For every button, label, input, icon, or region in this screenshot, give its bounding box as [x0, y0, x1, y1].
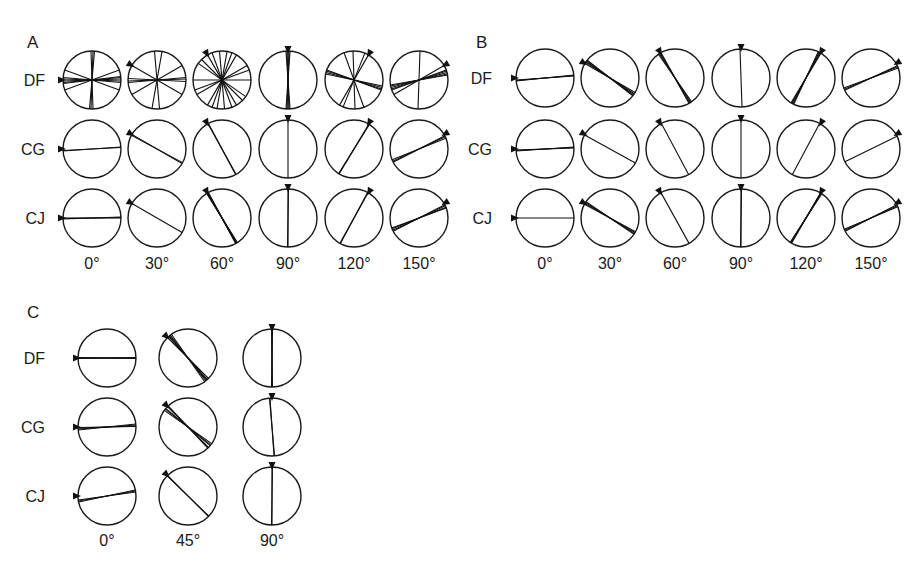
response-line: [587, 60, 633, 96]
orientation-dial: [243, 324, 301, 387]
row-label-cg: CG: [21, 419, 45, 436]
stimulus-marker-icon: [58, 215, 66, 222]
panel-a: ADFCGCJ0°30°60°90°120°150°: [21, 33, 450, 272]
condition-label: 60°: [210, 255, 234, 272]
response-line: [792, 123, 819, 174]
row-label-cj: CJ: [25, 488, 45, 505]
orientation-dial: [193, 49, 251, 109]
stimulus-marker-icon: [285, 115, 292, 123]
response-line: [845, 205, 897, 231]
stimulus-marker-icon: [285, 184, 292, 192]
orientation-dial: [58, 51, 121, 109]
stimulus-marker-icon: [161, 400, 169, 408]
response-line: [791, 53, 821, 103]
orientation-dial: [777, 118, 835, 178]
panel-letter: A: [27, 33, 39, 52]
response-line: [845, 136, 897, 161]
response-line: [392, 208, 447, 228]
response-line: [584, 204, 635, 231]
row-label-df: DF: [471, 70, 493, 87]
orientation-dial: [646, 118, 704, 178]
response-line: [208, 123, 235, 174]
orientation-dial: [646, 47, 704, 107]
condition-label: 120°: [337, 255, 370, 272]
panel-b: BDFCGCJ0°30°60°90°120°150°: [468, 33, 902, 272]
orientation-dial: [777, 187, 835, 247]
orientation-dial: [58, 189, 121, 247]
response-line: [393, 136, 445, 162]
response-line: [790, 194, 822, 243]
response-line: [132, 135, 182, 164]
stimulus-marker-icon: [738, 44, 745, 52]
response-line: [740, 49, 742, 107]
condition-label: 0°: [84, 255, 99, 272]
orientation-dial: [243, 462, 301, 525]
row-label-cg: CG: [468, 141, 492, 158]
response-line: [270, 398, 274, 456]
orientation-dial: [259, 184, 317, 247]
condition-label: 90°: [260, 532, 284, 549]
stimulus-marker-icon: [73, 355, 81, 362]
figure-canvas: ADFCGCJ0°30°60°90°120°150°BDFCGCJ0°30°60…: [0, 0, 918, 573]
orientation-dial: [126, 189, 186, 247]
panel-letter: C: [27, 303, 39, 322]
condition-label: 0°: [99, 532, 114, 549]
panel-letter: B: [476, 33, 487, 52]
response-line: [78, 426, 136, 427]
response-line: [168, 406, 208, 448]
response-line: [340, 193, 368, 244]
condition-label: 90°: [276, 255, 300, 272]
response-line: [516, 75, 574, 81]
condition-label: 150°: [402, 255, 435, 272]
orientation-dial: [325, 118, 383, 178]
stimulus-marker-icon: [161, 331, 169, 339]
orientation-dial: [159, 467, 217, 525]
orientation-dial: [259, 46, 317, 109]
stimulus-marker-icon: [738, 184, 745, 192]
orientation-dial: [126, 120, 186, 178]
orientation-dial: [842, 49, 902, 107]
stimulus-marker-icon: [269, 462, 276, 470]
condition-label: 150°: [854, 255, 887, 272]
orientation-dial: [579, 189, 639, 247]
orientation-dial: [259, 115, 317, 178]
orientation-dial: [325, 49, 383, 109]
condition-label: 30°: [598, 255, 622, 272]
condition-label: 30°: [145, 255, 169, 272]
stimulus-marker-icon: [511, 215, 519, 222]
orientation-dial: [73, 329, 136, 387]
orientation-dial: [325, 187, 383, 247]
orientation-dial: [159, 398, 217, 456]
orientation-dial: [646, 187, 704, 247]
response-line: [661, 193, 689, 244]
condition-label: 45°: [176, 532, 200, 549]
orientation-dial: [842, 189, 902, 247]
stimulus-marker-icon: [73, 493, 81, 500]
row-label-cj: CJ: [25, 210, 45, 227]
orientation-dial: [390, 120, 450, 178]
orientation-dial: [193, 118, 251, 178]
orientation-dial: [579, 120, 639, 178]
orientation-dial: [511, 189, 574, 247]
orientation-dial: [193, 187, 251, 247]
response-line: [516, 147, 574, 151]
orientation-dial: [579, 49, 639, 107]
response-line: [132, 204, 182, 233]
response-line: [585, 135, 636, 163]
stimulus-marker-icon: [269, 324, 276, 332]
orientation-dial: [73, 398, 136, 456]
condition-label: 90°: [729, 255, 753, 272]
orientation-dial: [390, 51, 450, 109]
orientation-dial: [842, 120, 902, 178]
orientation-dial: [712, 184, 770, 247]
response-line: [658, 54, 691, 102]
orientation-dial: [73, 467, 136, 525]
orientation-dial: [159, 329, 217, 387]
response-line: [171, 334, 204, 382]
response-line: [79, 490, 136, 502]
orientation-dial: [777, 47, 835, 107]
orientation-dial: [126, 51, 186, 109]
row-label-cj: CJ: [472, 210, 492, 227]
response-line: [339, 124, 370, 173]
response-line: [844, 68, 899, 88]
